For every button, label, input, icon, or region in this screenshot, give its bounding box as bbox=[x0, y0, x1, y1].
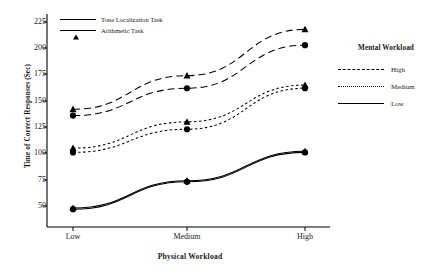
series-3 bbox=[70, 85, 308, 155]
circle-marker-icon bbox=[302, 85, 308, 91]
circle-marker-icon bbox=[184, 85, 190, 91]
series-5 bbox=[70, 149, 308, 212]
solid-line-icon bbox=[338, 103, 384, 104]
chart-figure: Time of Correct Responses (Sec) Physical… bbox=[0, 0, 447, 272]
mw-legend-label-medium: Medium bbox=[391, 83, 415, 91]
legend-item-arithmetic-task: Arithmetic Task bbox=[60, 25, 163, 36]
series-line bbox=[73, 45, 305, 115]
circle-marker-icon bbox=[184, 126, 190, 132]
triangle-marker-icon bbox=[73, 27, 79, 39]
series-line bbox=[73, 88, 305, 152]
series-1 bbox=[70, 42, 308, 119]
mw-legend-label-low: Low bbox=[391, 100, 404, 108]
series-0 bbox=[69, 26, 308, 112]
legend-line-solid bbox=[60, 19, 96, 20]
data-series-layer bbox=[69, 26, 308, 213]
y-axis-ticks bbox=[43, 22, 47, 206]
dashed-line-icon bbox=[338, 69, 384, 70]
circle-marker-icon bbox=[70, 149, 76, 155]
circle-marker-icon bbox=[302, 149, 308, 155]
circle-marker-icon bbox=[302, 42, 308, 48]
series-2 bbox=[69, 81, 308, 151]
legend-label-tone-localization-task: Tone Localization Task bbox=[101, 14, 163, 25]
series-4 bbox=[69, 148, 308, 211]
circle-marker-icon bbox=[70, 112, 76, 118]
mw-legend-item-low: Low bbox=[330, 95, 442, 112]
series-line bbox=[73, 29, 305, 109]
legend-label-arithmetic-task: Arithmetic Task bbox=[101, 25, 143, 36]
mw-legend-label-high: High bbox=[391, 66, 405, 74]
mw-legend-item-high: High bbox=[330, 61, 442, 78]
mw-legend-item-medium: Medium bbox=[330, 78, 442, 95]
x-axis-ticks bbox=[73, 227, 305, 231]
series-line bbox=[73, 85, 305, 148]
dotted-line-icon bbox=[338, 86, 384, 87]
legend-line-solid bbox=[60, 30, 96, 31]
plot-area bbox=[0, 0, 447, 272]
circle-marker-icon bbox=[184, 179, 190, 185]
task-legend: Tone Localization Task Arithmetic Task bbox=[60, 14, 163, 36]
circle-marker-icon bbox=[70, 206, 76, 212]
mental-workload-legend-title: Mental Workload bbox=[330, 44, 442, 52]
legend-item-tone-localization-task: Tone Localization Task bbox=[60, 14, 163, 25]
mental-workload-legend: Mental Workload High Medium Low bbox=[330, 44, 442, 112]
